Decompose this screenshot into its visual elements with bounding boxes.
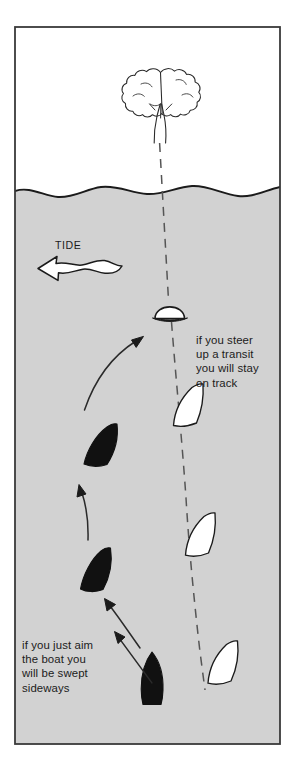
nautical-transit-diagram: TIDE if you steer up a transit you will … [0,0,295,772]
annotation-swept-sideways: if you just aim the boat you will be swe… [22,638,93,695]
annotation-on-track: if you steer up a transit you will stay … [196,333,259,390]
tide-label: TIDE [55,239,82,251]
